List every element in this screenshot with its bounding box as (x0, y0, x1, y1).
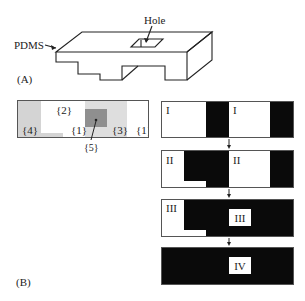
step-arrows (0, 0, 305, 301)
